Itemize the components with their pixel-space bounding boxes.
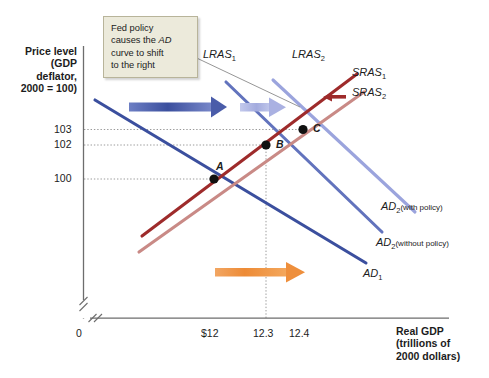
curve-label-lras2-sub: 2 [321,54,325,63]
callout-line-2: causes the AD [111,34,191,46]
y-tick-103: 103 [54,123,72,135]
curve-label-sras1: SRAS1 [352,66,386,82]
lras-shift-arrow [215,262,305,283]
y-tick-102: 102 [54,138,72,150]
curve-sras2 [139,92,364,252]
curve-sras1 [142,74,357,236]
curve-label-ad1-base: AD [363,267,378,279]
callout-box: Fed policy causes the AD curve to shift … [103,16,198,78]
curve-label-lras1-sub: 1 [232,54,236,63]
curve-label-ad2-with-policy: AD2(with policy) [381,200,443,216]
curve-ad1 [95,100,366,263]
curve-label-sras2: SRAS2 [352,86,386,102]
y-axis-title-line-4: 2000 = 100) [14,82,77,94]
curve-label-ad2-without-policy: AD2(without policy) [376,236,449,252]
curve-label-ad1: AD1 [363,267,382,283]
y-axis-title-line-3: deflator, [14,70,77,82]
curve-label-ad2-without-base: AD [376,236,391,248]
x-axis-title-line-3: 2000 dollars) [396,350,486,362]
ad-shift-arrow-1 [129,97,227,118]
y-axis-title-line-2: (GDP [14,57,77,69]
point-label-c: C [313,122,321,134]
point-label-a: A [216,160,224,172]
point-label-b: B [276,138,284,150]
x-tick-12-4: 12.4 [289,327,309,339]
curve-label-lras1: LRAS1 [203,48,236,64]
equilibrium-point-c [298,125,307,134]
curve-label-ad2-with-paren: (with policy) [400,203,442,212]
curve-label-lras1-base: LRAS [203,48,232,60]
callout-emphasis-ad: AD [159,35,172,45]
x-tick-12: $12 [201,327,219,339]
ad-as-model-figure: Price level (GDP deflator, 2000 = 100) 1… [0,0,489,378]
equilibrium-point-b [261,140,270,149]
callout-line-1: Fed policy [111,22,191,34]
curve-label-ad1-sub: 1 [378,273,382,282]
x-tick-origin: 0 [76,327,82,339]
curve-label-lras2: LRAS2 [292,48,325,64]
curve-label-sras1-sub: 1 [382,72,386,81]
curve-label-lras2-base: LRAS [292,48,321,60]
callout-line-3: curve to shift [111,47,191,59]
x-axis-title-line-2: (trillions of [396,337,486,349]
curve-label-ad2-with-base: AD [381,200,396,212]
sras-shift-arrow [323,93,346,102]
callout-line-2-text: causes the [111,35,159,45]
curve-label-sras1-base: SRAS [352,66,382,78]
curve-label-sras2-base: SRAS [352,86,382,98]
callout-line-4: to the right [111,59,191,71]
x-tick-12-3: 12.3 [253,327,273,339]
curve-label-ad2-without-paren: (without policy) [395,239,448,248]
x-axis-title: Real GDP (trillions of 2000 dollars) [396,325,486,362]
y-axis-title-line-1: Price level [14,45,77,57]
y-axis-title: Price level (GDP deflator, 2000 = 100) [14,45,77,95]
y-tick-100: 100 [54,172,72,184]
equilibrium-point-a [209,174,218,183]
x-axis-title-line-1: Real GDP [396,325,486,337]
curve-label-sras2-sub: 2 [382,92,386,101]
